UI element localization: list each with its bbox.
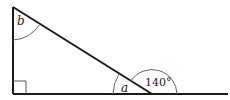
angle-a-label: a (121, 81, 128, 95)
right-angle-marker (13, 81, 26, 94)
triangle-diagram: b a 140° (0, 0, 230, 100)
angle-b-label: b (17, 14, 25, 28)
angle-a-arc (113, 74, 119, 94)
angle-140-label: 140° (145, 76, 172, 89)
